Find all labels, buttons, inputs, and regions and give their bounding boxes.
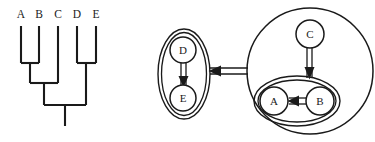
edge-bigcircle-to-de (209, 66, 249, 77)
edge-b-to-a (288, 96, 308, 107)
node-c-label: C (306, 28, 313, 40)
node-e-label: E (180, 92, 187, 104)
edge-b-to-a-arrowhead (288, 96, 300, 107)
tree-tip-label-b: B (35, 8, 43, 20)
cladogram: A B C D E (17, 8, 100, 126)
nested-graph: D E C (158, 8, 373, 134)
node-c[interactable]: C (296, 20, 324, 48)
tree-tip-label-c: C (54, 8, 62, 20)
edge-d-to-e (179, 63, 189, 88)
node-d[interactable]: D (170, 37, 196, 63)
tree-tip-label-d: D (73, 8, 81, 20)
node-a-label: A (270, 95, 278, 107)
node-a[interactable]: A (260, 87, 288, 115)
diagram-canvas: A B C D E (0, 0, 375, 142)
tree-tip-label-a: A (17, 8, 26, 20)
node-d-label: D (179, 44, 187, 56)
node-e[interactable]: E (170, 85, 196, 111)
tree-tip-label-e: E (92, 8, 99, 20)
edge-c-to-ab-group (305, 47, 315, 80)
node-b-label: B (316, 95, 323, 107)
node-b[interactable]: B (306, 87, 334, 115)
